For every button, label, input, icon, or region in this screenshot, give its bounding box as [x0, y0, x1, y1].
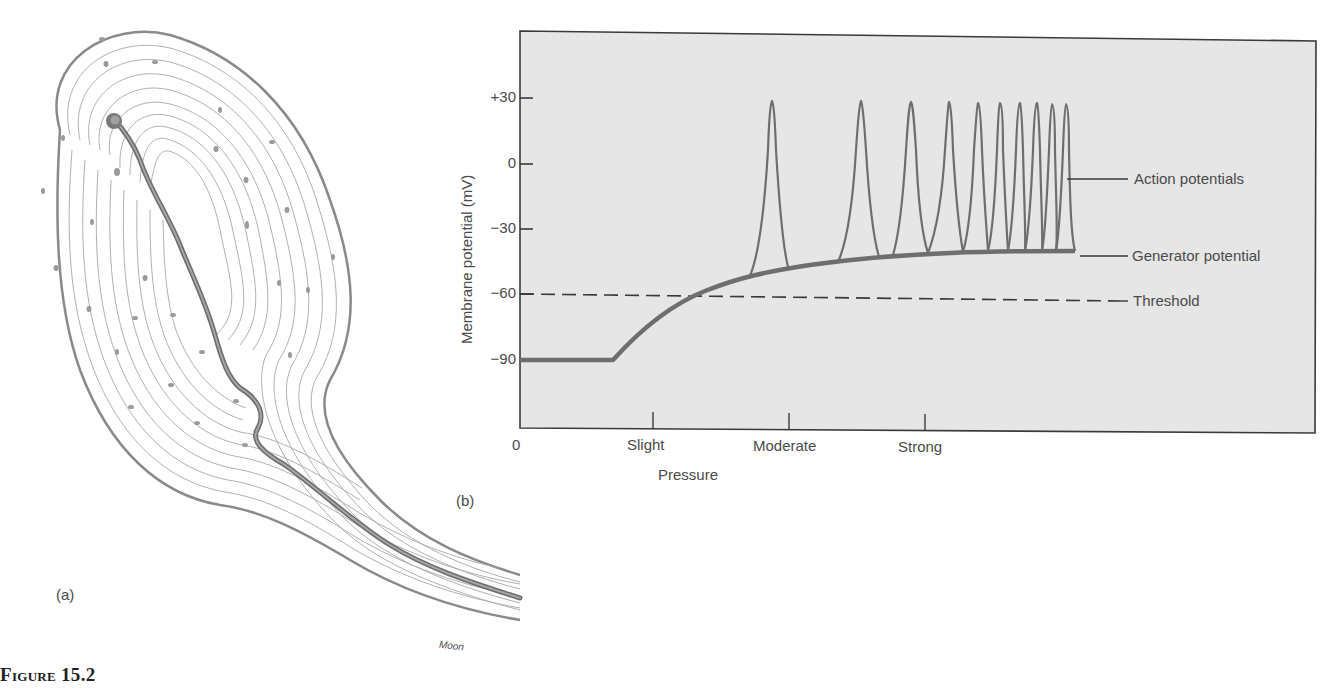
y-tick-label: −60 [466, 284, 516, 301]
x-tick-label: Moderate [753, 437, 816, 454]
legend-threshold: Threshold [1133, 292, 1200, 309]
y-tick-label: +30 [466, 88, 516, 105]
plot-area [520, 31, 1316, 433]
panel-label-a: (a) [56, 586, 74, 603]
legend-action-potentials: Action potentials [1134, 170, 1244, 187]
membrane-potential-chart [0, 0, 1331, 692]
x-tick-label: Slight [627, 436, 665, 453]
x-tick-label: 0 [512, 436, 520, 453]
figure-caption: Figure 15.2 [0, 664, 96, 686]
y-tick-label: −30 [466, 219, 516, 236]
x-axis-label: Pressure [658, 466, 718, 483]
x-tick-label: Strong [898, 438, 942, 455]
y-axis-label: Membrane potential (mV) [458, 175, 475, 344]
figure-15-2: Membrane potential (mV) +30 0 −30 −60 −9… [0, 0, 1331, 692]
panel-label-b: (b) [456, 492, 474, 509]
y-tick-label: 0 [466, 154, 516, 171]
legend-generator-potential: Generator potential [1132, 247, 1260, 264]
y-tick-label: −90 [466, 350, 516, 367]
